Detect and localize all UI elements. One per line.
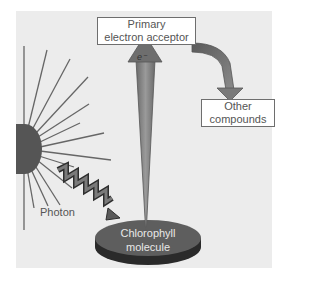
primary-electron-acceptor-box: Primary electron acceptor <box>97 17 196 45</box>
other-compounds-box: Other compounds <box>201 99 275 127</box>
primary-acceptor-line2: electron acceptor <box>98 31 195 44</box>
chlorophyll-line1: Chlorophyll <box>110 226 186 240</box>
electron-arrow <box>128 35 162 236</box>
photon-label: Photon <box>40 206 75 218</box>
curved-arrow <box>192 43 243 101</box>
other-compounds-line2: compounds <box>202 113 274 126</box>
chlorophyll-line2: molecule <box>110 240 186 254</box>
chlorophyll-label: Chlorophyll molecule <box>110 226 186 254</box>
other-compounds-line1: Other <box>202 100 274 113</box>
electron-label: e⁻ <box>137 52 147 62</box>
primary-acceptor-line1: Primary <box>98 18 195 31</box>
